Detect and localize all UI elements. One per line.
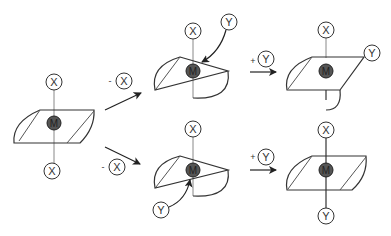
svg-text:-: - bbox=[109, 76, 112, 86]
svg-text:X: X bbox=[322, 124, 330, 136]
m-node: M bbox=[186, 163, 200, 177]
svg-text:Y: Y bbox=[262, 151, 270, 163]
diagram-canvas: X M X - X - X X Y bbox=[0, 0, 391, 236]
y-node-incoming: Y bbox=[202, 14, 237, 62]
x-node-bottom: X bbox=[44, 163, 60, 179]
y-node-incoming: Y bbox=[153, 180, 190, 218]
svg-text:Y: Y bbox=[157, 204, 165, 216]
m-node: M bbox=[319, 163, 333, 177]
svg-text:M: M bbox=[50, 118, 58, 129]
svg-text:Y: Y bbox=[225, 16, 233, 28]
m-node: M bbox=[319, 64, 333, 78]
intermediate-top-state: X Y M bbox=[154, 14, 237, 98]
svg-text:M: M bbox=[189, 165, 197, 176]
svg-text:X: X bbox=[322, 24, 330, 36]
x-node: X bbox=[318, 22, 334, 38]
final-top-state: X Y M bbox=[287, 22, 380, 110]
svg-text:X: X bbox=[113, 161, 121, 173]
x-node: X bbox=[185, 23, 201, 39]
svg-text:X: X bbox=[48, 165, 56, 177]
svg-text:X: X bbox=[120, 75, 128, 87]
intermediate-bottom-state: X Y M bbox=[153, 121, 228, 218]
diagram-svg: X M X - X - X X Y bbox=[0, 0, 391, 236]
svg-text:X: X bbox=[189, 123, 197, 135]
x-node-top: X bbox=[46, 74, 62, 90]
svg-text:M: M bbox=[322, 165, 330, 176]
svg-text:M: M bbox=[189, 66, 197, 77]
svg-text:Y: Y bbox=[368, 47, 376, 59]
m-node: M bbox=[47, 116, 61, 130]
svg-text:M: M bbox=[322, 66, 330, 77]
svg-text:X: X bbox=[50, 76, 58, 88]
transition-top-right: + Y bbox=[250, 51, 276, 72]
x-node: X bbox=[318, 122, 334, 138]
final-bottom-state: X M Y bbox=[287, 122, 367, 224]
svg-text:+: + bbox=[250, 152, 255, 162]
transition-bottom: - X bbox=[102, 147, 141, 175]
svg-text:Y: Y bbox=[322, 210, 330, 222]
svg-text:X: X bbox=[189, 25, 197, 37]
svg-text:Y: Y bbox=[262, 53, 270, 65]
y-node-bound: Y bbox=[318, 208, 334, 224]
initial-state: X M X bbox=[14, 74, 94, 179]
y-node-bound: Y bbox=[364, 45, 380, 61]
x-node: X bbox=[185, 121, 201, 137]
svg-text:-: - bbox=[102, 162, 105, 172]
svg-text:+: + bbox=[250, 56, 255, 66]
m-node: M bbox=[186, 64, 200, 78]
transition-bottom-right: + Y bbox=[250, 149, 276, 170]
transition-top: - X bbox=[105, 73, 141, 110]
